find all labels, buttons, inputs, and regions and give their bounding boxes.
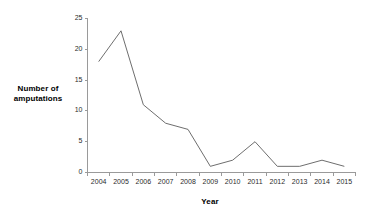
data-series-line [99,31,345,167]
line-chart: Number of amputations Year 0510152025 20… [0,0,366,220]
axes [88,19,356,173]
tick-marks [85,19,356,176]
plot-area [0,0,366,220]
